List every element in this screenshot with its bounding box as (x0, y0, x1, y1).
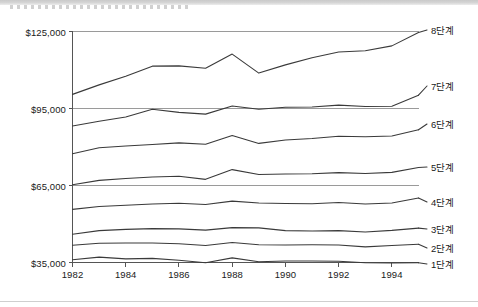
series-legend-label-3단계: 3단계 (431, 222, 454, 236)
x-axis-tick-label: 1988 (221, 269, 243, 280)
series-line-3단계 (73, 228, 419, 235)
series-legend-label-7단계: 7단계 (431, 79, 454, 93)
line-chart: $125,000$95,000$65,000$35,000 1982198419… (0, 0, 478, 307)
x-axis-tick-label: 1990 (275, 269, 297, 280)
legend-leader-2단계 (419, 244, 428, 248)
legend-leader-6단계 (419, 124, 428, 130)
series-legend-label-5단계: 5단계 (431, 160, 454, 174)
y-axis-tick-label: $95,000 (8, 103, 66, 114)
legend-leader-5단계 (419, 167, 428, 168)
series-line-8단계 (73, 33, 419, 95)
series-line-6단계 (73, 130, 419, 154)
series-line-4단계 (73, 198, 419, 209)
x-axis-tick-label: 1984 (115, 269, 137, 280)
series-legend-label-8단계: 8단계 (431, 23, 454, 37)
y-axis-tick-label: $35,000 (8, 257, 66, 268)
series-legend-label-4단계: 4단계 (431, 195, 454, 209)
series-legend-label-1단계: 1단계 (431, 257, 454, 271)
legend-leader-lines (419, 30, 428, 264)
series-line-2단계 (73, 242, 419, 246)
series-legend-label-2단계: 2단계 (431, 241, 454, 255)
x-axis-tick-label: 1986 (168, 269, 190, 280)
legend-leader-7단계 (419, 86, 428, 95)
chart-canvas (0, 0, 478, 307)
chart-page: $125,000$95,000$65,000$35,000 1982198419… (0, 0, 478, 307)
legend-leader-3단계 (419, 228, 428, 229)
legend-leader-4단계 (419, 198, 428, 202)
x-axis-tick-label: 1992 (328, 269, 350, 280)
x-axis-tick-label: 1982 (62, 269, 84, 280)
legend-leader-8단계 (419, 30, 428, 33)
series-legend-label-6단계: 6단계 (431, 117, 454, 131)
x-axis-tick-label: 1994 (381, 269, 403, 280)
series-line-7단계 (73, 95, 419, 126)
y-axis-tick-label: $125,000 (8, 26, 66, 37)
legend-leader-1단계 (419, 263, 428, 264)
y-axis-tick-label: $65,000 (8, 180, 66, 191)
series-lines (73, 33, 419, 263)
series-line-5단계 (73, 168, 419, 185)
